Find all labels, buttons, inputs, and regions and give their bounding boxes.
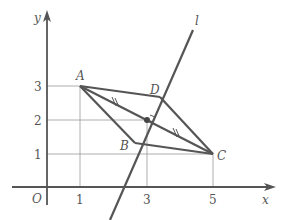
origin-label: O [32,192,42,206]
point-c-label: C [217,149,226,163]
point-d-label: D [149,83,160,97]
x-tick-5: 5 [209,193,217,207]
line-l [110,30,193,220]
x-tick-3: 3 [143,193,151,207]
line-l-label: l [195,14,199,28]
point-b-label: B [119,139,129,153]
y-tick-2: 2 [34,114,42,128]
y-tick-3: 3 [34,80,42,94]
point-a-label: A [75,69,85,83]
coordinate-diagram: y x O 1 3 5 1 2 3 A D B C l [0,0,287,220]
x-tick-1: 1 [76,193,84,207]
axes [12,10,276,205]
segment-dc [160,97,213,154]
y-axis-label: y [33,11,41,25]
x-axis-label: x [262,193,269,207]
y-tick-1: 1 [34,148,42,162]
segment-ba [80,86,135,143]
